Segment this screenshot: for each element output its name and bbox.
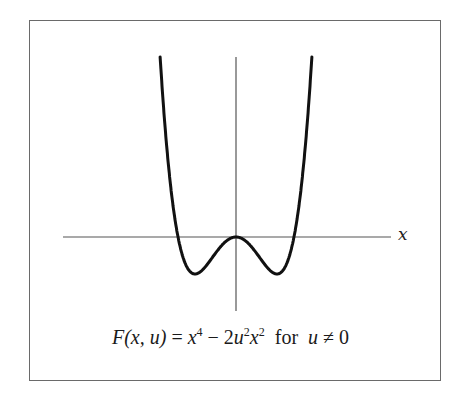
caption-lhs: F(x, u) (112, 326, 166, 348)
caption-x2: x (250, 326, 259, 348)
formula-caption: F(x, u) = x4 − 2u2x2 for u ≠ 0 (0, 326, 461, 349)
x-axis-label: x (398, 224, 408, 244)
caption-u-cond: u (308, 326, 318, 348)
caption-neq-zero: ≠ 0 (318, 326, 349, 348)
caption-u: u (234, 326, 244, 348)
caption-minus-two: − 2 (203, 326, 234, 348)
caption-equals: = (166, 326, 187, 348)
caption-x: x (188, 326, 197, 348)
caption-for: for (265, 326, 308, 348)
